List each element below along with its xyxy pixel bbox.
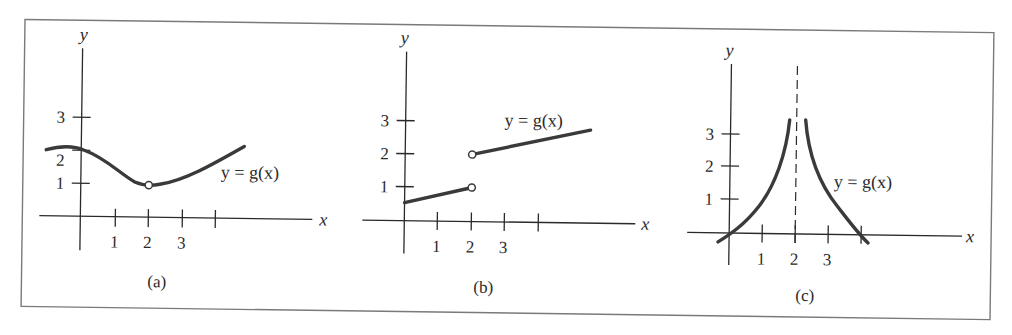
x-tick-label-3: 3 — [499, 238, 508, 257]
panel-b: y x 3 2 1 1 2 3 y = g(x) (b) — [361, 27, 652, 299]
x-tick-label-2: 2 — [466, 237, 475, 256]
y-tick-label-1: 1 — [380, 177, 389, 196]
function-label: y = g(x) — [834, 171, 892, 193]
figure-frame — [21, 19, 994, 319]
segment-lower — [405, 188, 468, 204]
y-tick-label-2: 2 — [705, 157, 714, 176]
y-axis-label: y — [399, 28, 409, 48]
y-tick-label-1: 1 — [704, 190, 713, 209]
y-tick-label-3: 3 — [57, 108, 66, 127]
panel-a: y x 3 2 1 1 2 3 y = g(x) (a) — [38, 24, 330, 294]
caption-c: (c) — [795, 286, 814, 305]
caption-b: (b) — [473, 278, 493, 297]
y-axis-label: y — [78, 24, 88, 44]
x-tick-label-1: 1 — [110, 233, 119, 252]
hole-marker — [145, 181, 152, 188]
y-tick-label-2: 2 — [380, 144, 389, 163]
y-axis — [404, 52, 407, 254]
x-axis — [362, 220, 635, 224]
caption-a: (a) — [147, 272, 166, 291]
y-tick-label-1: 1 — [56, 174, 65, 193]
x-tick-label-2: 2 — [790, 250, 799, 269]
x-axis-label: x — [318, 209, 327, 229]
segment-upper — [476, 129, 590, 156]
x-tick-label-2: 2 — [143, 233, 152, 252]
x-tick-label-3: 3 — [177, 234, 186, 253]
x-tick-label-1: 1 — [432, 237, 441, 256]
asymptote-line — [795, 66, 797, 246]
y-tick-label-2: 2 — [56, 151, 65, 170]
x-tick-label-3: 3 — [823, 250, 832, 269]
panel-c: y x 3 2 1 1 2 3 y = g(x) (c) — [686, 39, 977, 307]
hole-marker-lower — [468, 184, 475, 191]
y-tick-label-3: 3 — [381, 111, 390, 130]
y-tick-label-3: 3 — [705, 125, 714, 144]
y-axis-label: y — [724, 40, 734, 60]
function-label: y = g(x) — [221, 162, 279, 184]
hole-marker-upper — [469, 151, 476, 158]
figure: y x 3 2 1 1 2 3 y = g(x) (a) y x 3 2 1 — [0, 0, 1012, 335]
x-axis-label: x — [640, 214, 649, 234]
x-tick-label-1: 1 — [757, 249, 766, 268]
function-label: y = g(x) — [505, 110, 563, 132]
x-axis-label: x — [965, 226, 974, 246]
